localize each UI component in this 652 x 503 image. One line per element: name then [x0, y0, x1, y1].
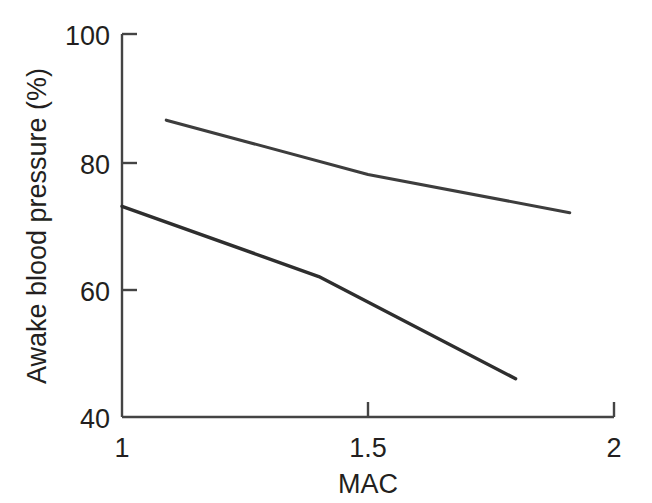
- chart-figure: 100 80 60 40 1 1.5 2 MAC Awake blood pre…: [0, 0, 652, 503]
- x-tick-label-1: 1: [114, 433, 129, 463]
- y-tick-label-60: 60: [80, 277, 110, 307]
- line-chart: 100 80 60 40 1 1.5 2 MAC Awake blood pre…: [0, 0, 652, 503]
- y-axis-title: Awake blood pressure (%): [22, 68, 52, 384]
- x-tick-label-2: 2: [606, 433, 621, 463]
- x-tick-label-1-5: 1.5: [349, 433, 387, 463]
- y-tick-label-80: 80: [80, 150, 110, 180]
- x-axis-title: MAC: [338, 469, 398, 499]
- y-tick-label-100: 100: [65, 21, 110, 51]
- y-tick-label-40: 40: [80, 404, 110, 434]
